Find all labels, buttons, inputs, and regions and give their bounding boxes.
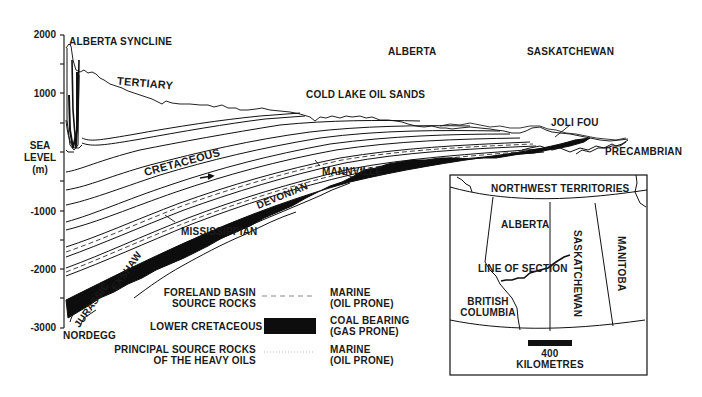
label-alberta: ALBERTA (388, 46, 436, 57)
legend-principal-line-1: PRINCIPAL SOURCE ROCKS (110, 344, 256, 355)
map-label-bc: BRITISH COLUMBIA (456, 296, 520, 318)
tick-minus-2000: -2000 (16, 264, 56, 275)
legend-principal-desc: MARINE (OIL PRONE) (330, 344, 394, 366)
map-label-bc-2: COLUMBIA (456, 307, 520, 318)
label-alberta-syncline: ALBERTA SYNCLINE (69, 36, 172, 47)
label-saskatchewan: SASKATCHEWAN (527, 46, 614, 57)
legend-coal-desc-1: COAL BEARING (330, 315, 409, 326)
legend-foreland-desc-1: MARINE (330, 287, 394, 298)
elevation-axis (60, 35, 64, 328)
tick-minus-3000: -3000 (16, 322, 56, 333)
label-cold-lake-oil-sands: COLD LAKE OIL SANDS (306, 89, 425, 100)
legend-principal-line-2: OF THE HEAVY OILS (110, 355, 256, 366)
sea-level-line-2: LEVEL (20, 152, 60, 164)
tick-2000: 2000 (16, 29, 56, 40)
legend-foreland-line-2: SOURCE ROCKS (160, 298, 256, 309)
sea-level-label: SEA LEVEL (m) (20, 140, 60, 176)
scale-unit: KILOMETRES (510, 359, 590, 370)
map-label-manitoba: MANITOBA (616, 236, 627, 291)
tick-minus-1000: -1000 (16, 206, 56, 217)
legend-foreland-line-1: FORELAND BASIN (160, 287, 256, 298)
legend-coal-desc-2: (GAS PRONE) (330, 326, 409, 337)
legend-principal-desc-1: MARINE (330, 344, 394, 355)
map-label-line-of-section: LINE OF SECTION (478, 263, 568, 274)
label-joli-fou: JOLI FOU (551, 117, 599, 128)
legend-foreland-desc: MARINE (OIL PRONE) (330, 287, 394, 309)
scale-value: 400 (520, 348, 580, 359)
map-label-alberta: ALBERTA (501, 219, 549, 230)
legend-lower-cretaceous-label: LOWER CRETACEOUS (150, 321, 256, 332)
sea-level-line-3: (m) (20, 164, 60, 176)
legend-black-symbol (264, 318, 316, 334)
legend-foreland-label: FORELAND BASIN SOURCE ROCKS (160, 287, 256, 309)
label-precambrian: PRECAMBRIAN (605, 146, 682, 157)
tick-1000: 1000 (16, 88, 56, 99)
scale-bar-symbol (528, 340, 572, 346)
map-label-bc-1: BRITISH (456, 296, 520, 307)
map-label-nwt: NORTHWEST TERRITORIES (491, 183, 629, 194)
label-mannville: MANNVILLE (322, 166, 382, 177)
label-mississippian: MISSISSIPPIAN (181, 226, 258, 237)
sea-level-line-1: SEA (20, 140, 60, 152)
legend-lower-cretaceous-desc: COAL BEARING (GAS PRONE) (330, 315, 409, 337)
map-label-saskatchewan: SASKATCHEWAN (572, 230, 583, 317)
legend-principal-desc-2: (OIL PRONE) (330, 355, 394, 366)
legend-foreland-desc-2: (OIL PRONE) (330, 298, 394, 309)
legend-principal-label: PRINCIPAL SOURCE ROCKS OF THE HEAVY OILS (110, 344, 256, 366)
label-nordegg: NORDEGG (63, 330, 116, 341)
